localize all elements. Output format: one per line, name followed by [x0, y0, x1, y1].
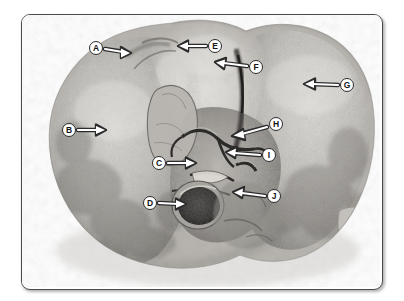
- figure-root: A B: [0, 0, 404, 301]
- label-bubble-j[interactable]: J: [267, 189, 281, 203]
